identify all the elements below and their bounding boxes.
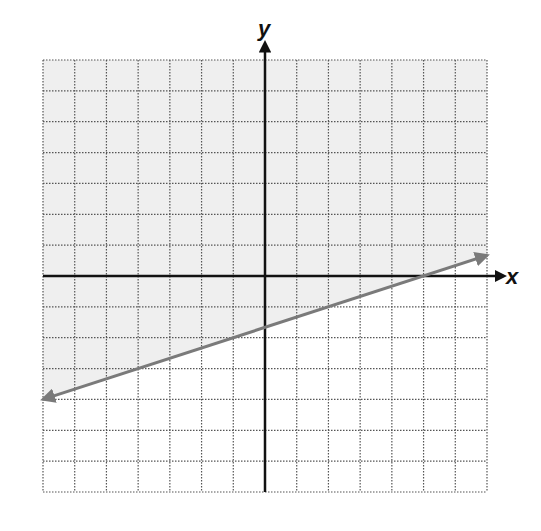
graph: x y: [0, 0, 541, 531]
x-axis-label: x: [506, 264, 518, 290]
coordinate-plane: [0, 0, 541, 531]
y-axis-label: y: [258, 16, 270, 42]
